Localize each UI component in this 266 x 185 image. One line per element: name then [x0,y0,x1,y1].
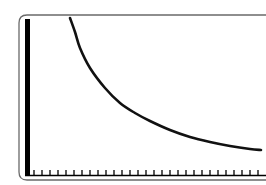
x-axis-ticks [34,170,258,176]
chart-frame [19,15,266,180]
y-axis [25,19,30,176]
chart [0,0,266,185]
data-curve [70,18,261,150]
